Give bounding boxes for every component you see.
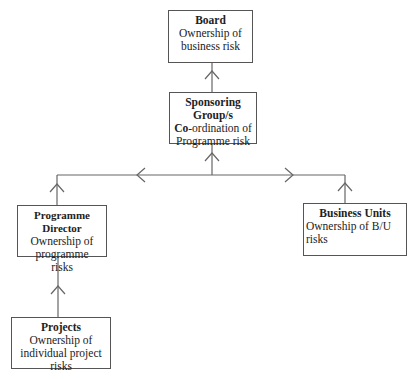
node-title-line2: Group/s (170, 109, 256, 122)
node-business-units: Business Units Ownership of B/U risks (303, 203, 407, 256)
node-programme-director: Programme Director Ownership of programm… (17, 205, 107, 257)
node-projects: Projects Ownership of individual project… (11, 317, 111, 369)
node-title: Board (169, 14, 252, 27)
node-title: Programme Director (18, 209, 106, 235)
node-desc: Ownership of B/U risks (304, 220, 406, 246)
node-desc: Co-ordination of Programme risk (170, 122, 256, 148)
node-title-line1: Sponsoring (170, 96, 256, 109)
node-sponsoring-group: Sponsoring Group/s Co-ordination of Prog… (169, 92, 257, 144)
node-title: Projects (12, 321, 110, 334)
node-board: Board Ownership of business risk (168, 10, 253, 63)
node-desc-rest: -ordination of Programme risk (176, 122, 252, 147)
node-title: Business Units (304, 207, 406, 220)
node-desc-bold: Co (174, 122, 188, 134)
node-desc: Ownership of business risk (169, 27, 252, 53)
node-desc: Ownership of individual project risks (12, 334, 110, 373)
node-desc: Ownership of programme risks (18, 235, 106, 274)
